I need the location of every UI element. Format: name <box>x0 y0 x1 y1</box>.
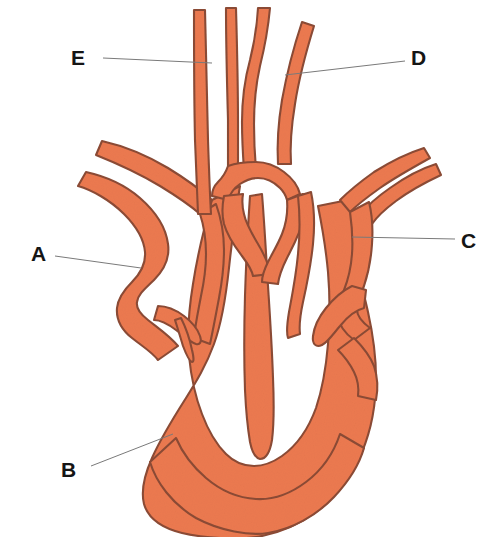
label-E: E <box>71 47 85 68</box>
heart-illustration <box>0 0 497 537</box>
label-C: C <box>461 230 476 251</box>
vessel-right-great-artery <box>278 22 314 164</box>
vessel-aorta <box>242 8 270 170</box>
heart-anatomy-group <box>78 8 441 537</box>
label-B: B <box>61 459 76 480</box>
heart-diagram: E D A C B <box>0 0 497 537</box>
label-D: D <box>411 47 426 68</box>
vessel-superior-vena-cava <box>194 10 211 214</box>
leader-line-A <box>55 256 141 268</box>
vessel-pulmonary-trunk-left-branch <box>226 8 238 166</box>
label-A: A <box>31 243 46 264</box>
